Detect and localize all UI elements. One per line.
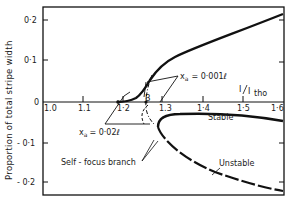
stable-label: Stable bbox=[208, 113, 233, 122]
x-tick-label: 1.1 bbox=[78, 104, 91, 113]
x-tick-label: 1·5 bbox=[237, 104, 250, 113]
x-tick-label: 1·2 bbox=[117, 104, 130, 113]
xa-002-label: xa= 0·02ℓ bbox=[79, 128, 120, 138]
y-tick-label: - 0·2 bbox=[17, 178, 35, 187]
chart: 0·2 0·1 0 - 0·1 - 0·2 1.0 1.1 1·2 1.3 1·… bbox=[0, 0, 291, 202]
svg-text:I: I bbox=[239, 85, 241, 94]
x-tick-label: 1.0 bbox=[44, 104, 57, 113]
y-tick-label: - 0·1 bbox=[17, 139, 35, 148]
x-tick-label: 1·6 bbox=[271, 104, 284, 113]
self-focus-leaders bbox=[142, 140, 158, 161]
svg-text:tho: tho bbox=[254, 89, 267, 98]
y-axis-label: Proportion of total stripe width bbox=[4, 40, 14, 180]
xa-002-lower-curve bbox=[142, 105, 148, 124]
y-tick-label: 0·1 bbox=[24, 56, 37, 65]
x-tick-label: 1.3 bbox=[159, 104, 172, 113]
y-tick-label: 0·2 bbox=[24, 16, 37, 25]
xa-0001-label: xa= 0·001ℓ bbox=[180, 72, 227, 82]
x-tick-label: 1·4 bbox=[197, 104, 210, 113]
self-focus-label: Self - focus branch bbox=[61, 158, 136, 167]
unstable-label: Unstable bbox=[219, 159, 254, 168]
svg-text:I: I bbox=[248, 87, 250, 96]
y-tick-label: 0 bbox=[34, 98, 39, 107]
